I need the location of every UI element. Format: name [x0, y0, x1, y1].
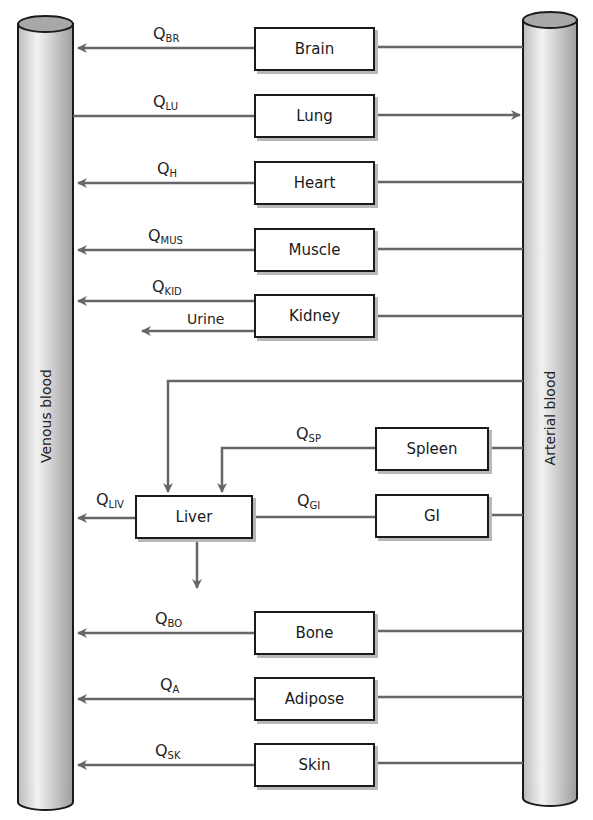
flow-label-liver: QLIV	[96, 490, 124, 510]
flow-label-skin: QSK	[155, 741, 181, 761]
flow-label-muscle: QMUS	[148, 226, 183, 246]
venous-blood-label: Venous blood	[38, 366, 54, 466]
organ-skin: Skin	[254, 743, 375, 787]
organ-bone: Bone	[254, 611, 375, 655]
arterial-blood-label: Arterial blood	[542, 368, 558, 468]
organ-brain: Brain	[254, 27, 375, 71]
flow-label-gi: QGI	[297, 491, 320, 511]
flow-label-heart: QH	[157, 159, 177, 179]
organ-spleen: Spleen	[375, 427, 489, 471]
organ-heart: Heart	[254, 161, 375, 205]
flow-label-adipose: QA	[160, 675, 179, 695]
organ-liver: Liver	[135, 495, 253, 539]
organ-muscle: Muscle	[254, 228, 375, 272]
organ-lung: Lung	[254, 94, 375, 138]
flow-label-lung: QLU	[153, 92, 178, 112]
organ-kidney: Kidney	[254, 294, 375, 338]
flow-label-bone: QBO	[155, 609, 182, 629]
urine-label: Urine	[187, 311, 224, 327]
flow-label-kidney: QKID	[152, 277, 182, 297]
flow-label-brain: QBR	[153, 24, 179, 44]
organ-adipose: Adipose	[254, 677, 375, 721]
organ-gi: GI	[375, 494, 489, 538]
flow-label-spleen: QSP	[296, 424, 321, 444]
